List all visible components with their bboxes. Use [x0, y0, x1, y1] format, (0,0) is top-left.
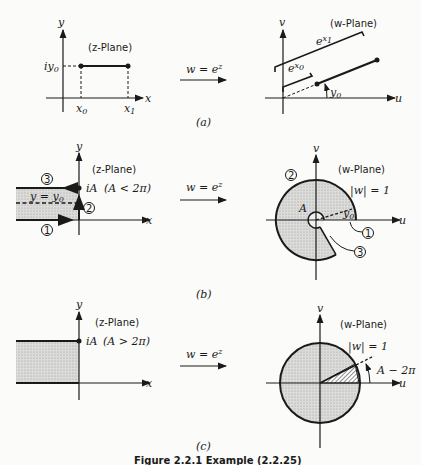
point-iA: [77, 339, 82, 344]
angle-arc: [366, 364, 370, 383]
panel-label-a: (a): [196, 116, 211, 129]
w-plane-title: (w-Plane): [340, 319, 387, 330]
circle-label: |w| = 1: [350, 184, 390, 198]
figure-canvas: x y (z-Plane) iy0 x0 x1 w = ez u v (w-Pl…: [0, 0, 421, 465]
x-tick-x0: x0: [76, 102, 87, 116]
x-axis-label: x: [146, 214, 153, 227]
y-axis-label: y: [75, 140, 83, 153]
point-x0: [79, 64, 84, 69]
z-plane-title: (z-Plane): [95, 317, 139, 328]
mapping-arrow-b: w = ez: [180, 180, 226, 200]
shaded-strip: [16, 341, 79, 383]
image-segment: [317, 60, 377, 84]
panel-a: x y (z-Plane) iy0 x0 x1 w = ez u v (w-Pl…: [44, 16, 402, 129]
point-x1: [126, 64, 131, 69]
w-plane-title: (w-Plane): [330, 18, 377, 29]
u-axis-label: u: [399, 377, 406, 390]
pointer-3: [330, 236, 354, 251]
point-iA: [77, 186, 82, 191]
circle-label: |w| = 1: [348, 340, 388, 354]
condition-label: (A > 2π): [103, 335, 150, 348]
mapping-label: w = ez: [186, 180, 223, 194]
y-axis-label: y: [57, 16, 65, 29]
mapping-label: w = ez: [186, 62, 223, 76]
y-axis-label: y: [75, 298, 83, 311]
condition-label: (A < 2π): [104, 182, 151, 195]
angle-arc: [325, 84, 327, 98]
mapping-arrow-a: w = ez: [180, 62, 226, 80]
panel-c: x y (z-Plane) iA (A > 2π) w = ez u v (w-…: [16, 298, 416, 453]
v-axis-label: v: [279, 16, 286, 29]
path-badge-3-label: 3: [357, 247, 363, 258]
brace-inner: [283, 73, 312, 92]
w-plane-title: (w-Plane): [338, 164, 385, 175]
dashed-ray: [283, 84, 317, 98]
mapping-arrow-c: w = ez: [180, 347, 226, 366]
brace-inner-label: ex0: [288, 61, 304, 75]
v-axis-label: v: [313, 142, 320, 155]
pointer-1: [350, 222, 362, 232]
angle-label-A: A: [298, 202, 307, 215]
w-plane-c: u v (w-Plane) |w| = 1 A − 2π: [266, 302, 416, 448]
image-point-x0: [315, 82, 320, 87]
panel-b: x y (z-Plane) y = y0 iA (A < 2π) 3 2 1 w…: [16, 140, 406, 301]
x-tick-x1: x1: [124, 102, 135, 116]
dashed-ray: [356, 356, 374, 365]
u-axis-label: u: [395, 92, 402, 105]
dashed-line-label: y = y0: [29, 190, 64, 204]
path-badge-1-label: 1: [365, 228, 371, 239]
path-badge-2-label: 2: [288, 170, 294, 181]
figure-caption: Figure 2.2.1 Example (2.2.25): [134, 455, 302, 465]
v-axis-label: v: [317, 302, 324, 315]
panel-label-b: (b): [196, 288, 212, 301]
point-label-iA: iA: [86, 182, 98, 195]
path-badge-3-label: 3: [44, 174, 50, 185]
brace-outer-label: ex1: [316, 34, 332, 48]
u-axis-label: u: [399, 214, 406, 227]
y-tick-iy0: iy0: [44, 60, 59, 74]
z-plane-title: (z-Plane): [88, 42, 132, 53]
w-plane-b: u v (w-Plane) |w| = 1 A y0 2 1 3: [266, 142, 406, 280]
z-plane-b: x y (z-Plane) y = y0 iA (A < 2π) 3 2 1: [16, 140, 153, 236]
z-plane-title: (z-Plane): [92, 164, 136, 175]
panel-label-c: (c): [196, 440, 211, 453]
x-axis-label: x: [145, 92, 152, 105]
angle-label-y0: y0: [329, 86, 341, 100]
angle-label: A − 2π: [376, 364, 416, 377]
x-axis-label: x: [146, 377, 153, 390]
path-badge-1-label: 1: [44, 225, 50, 236]
image-point-x1: [375, 58, 380, 63]
w-plane-a: u v (w-Plane) ex0 ex1 y0: [265, 16, 402, 114]
mapping-label: w = ez: [186, 347, 223, 361]
point-label-iA: iA: [86, 335, 98, 348]
path-badge-2-label: 2: [86, 203, 92, 214]
z-plane-c: x y (z-Plane) iA (A > 2π): [16, 298, 153, 400]
z-plane-a: x y (z-Plane) iy0 x0 x1: [44, 16, 152, 116]
